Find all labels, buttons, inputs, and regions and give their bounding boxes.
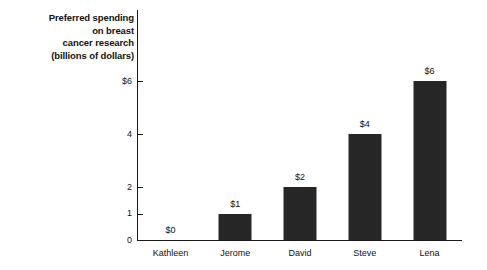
bar-group: $1 bbox=[203, 10, 267, 240]
bar-jerome bbox=[219, 214, 252, 241]
bar-value-label: $0 bbox=[165, 226, 175, 235]
y-tick-label: 1 bbox=[98, 209, 132, 218]
y-axis-title-line-3: cancer research bbox=[14, 37, 134, 50]
bar-lena bbox=[413, 81, 446, 240]
plot-area: $0$1$2$4$6 bbox=[138, 10, 462, 240]
bar-group: $2 bbox=[268, 10, 332, 240]
y-axis-title-line-1: Preferred spending bbox=[14, 12, 134, 25]
y-axis-title-line-4: (billions of dollars) bbox=[14, 50, 134, 63]
y-tick-label: $6 bbox=[98, 77, 132, 86]
bar-david bbox=[284, 187, 317, 240]
bar-value-label: $6 bbox=[425, 67, 435, 76]
y-axis-title-line-2: on breast bbox=[14, 25, 134, 38]
bar-group: $0 bbox=[138, 10, 202, 240]
bar-value-label: $1 bbox=[230, 200, 240, 209]
bar-value-label: $2 bbox=[295, 173, 305, 182]
y-tick-label: 4 bbox=[98, 130, 132, 139]
bar-chart: Preferred spending on breast cancer rese… bbox=[0, 0, 487, 270]
bar-value-label: $4 bbox=[360, 120, 370, 129]
y-tick-label: 2 bbox=[98, 183, 132, 192]
category-label-lena: Lena bbox=[390, 248, 470, 258]
y-tick-label: 0 bbox=[98, 236, 132, 245]
y-axis-title: Preferred spending on breast cancer rese… bbox=[14, 12, 134, 62]
x-axis-line bbox=[137, 240, 462, 241]
bar-steve bbox=[348, 134, 381, 240]
bar-group: $4 bbox=[333, 10, 397, 240]
bar-group: $6 bbox=[398, 10, 462, 240]
